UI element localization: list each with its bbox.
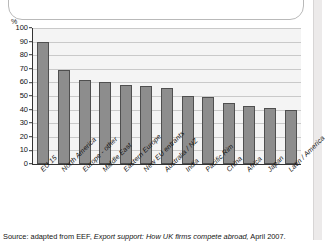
source-caption: Source: adapted from EEF, Export support… [3, 232, 303, 242]
x-label-slot: Latin / America [284, 166, 296, 230]
x-label-slot: Middle East [98, 166, 110, 230]
y-tick-10: 10 [20, 147, 28, 155]
x-label-slot: Europe - other [78, 166, 90, 230]
y-tick-30: 30 [20, 119, 28, 127]
source-suffix: April 2007. [250, 232, 285, 241]
x-label-slot: Australia / NZ [160, 166, 172, 230]
y-tick-70: 70 [20, 65, 28, 73]
x-label-slot: India [181, 166, 193, 230]
y-tick-100: 100 [15, 24, 28, 32]
plot-wrapper: 1009080706050403020100 EU 15North Americ… [10, 28, 302, 178]
bar [243, 106, 255, 164]
y-axis-tick-labels: 1009080706050403020100 [10, 28, 30, 164]
source-prefix: Source: adapted from EEF, [3, 232, 92, 241]
bar [285, 110, 297, 164]
bar [264, 108, 276, 164]
bar-chart-figure: % 1009080706050403020100 EU 15North Amer… [0, 18, 313, 240]
y-tick-50: 50 [20, 92, 28, 100]
x-label-slot: Pacific Rim [201, 166, 213, 230]
x-label-slot: EU 15 [36, 166, 48, 230]
bar [202, 97, 214, 164]
y-tick-90: 90 [20, 38, 28, 46]
x-label-slot: New EU entrants [139, 166, 151, 230]
bar [58, 70, 70, 164]
x-label-slot: Eastern Europe [119, 166, 131, 230]
x-label-slot: Africa [242, 166, 254, 230]
x-label-slot: North America [57, 166, 69, 230]
x-axis-tick-labels: EU 15North AmericaEurope - otherMiddle E… [32, 166, 300, 230]
page-edge [313, 0, 322, 240]
y-tick-80: 80 [20, 51, 28, 59]
source-title: Export support: How UK firms compete abr… [94, 232, 249, 241]
decorative-rounded-box [8, 0, 304, 20]
x-label-slot: Japan [263, 166, 275, 230]
y-tick-40: 40 [20, 106, 28, 114]
bar [37, 42, 49, 164]
y-tick-0: 0 [24, 160, 28, 168]
y-tick-60: 60 [20, 79, 28, 87]
y-tick-20: 20 [20, 133, 28, 141]
x-label-slot: China [222, 166, 234, 230]
